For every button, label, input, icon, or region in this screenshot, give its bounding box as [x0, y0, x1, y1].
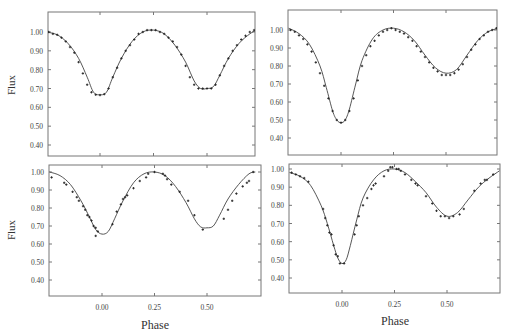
data-point	[78, 200, 80, 202]
y-tick-label: 0.40	[271, 274, 284, 283]
data-point	[448, 217, 450, 219]
y-tick-label: 1.00	[270, 26, 283, 35]
data-point	[458, 213, 460, 215]
data-point	[227, 209, 229, 211]
y-tick-label: 0.90	[271, 183, 284, 192]
data-point	[206, 87, 208, 89]
data-point	[372, 184, 374, 186]
y-tick-label: 0.80	[31, 204, 44, 213]
data-point	[172, 40, 174, 42]
y-tick-label: 0.50	[271, 256, 284, 265]
data-point	[170, 183, 172, 185]
x-tick-label: 0.25	[388, 300, 401, 309]
data-point	[399, 31, 401, 33]
panel-bottom-left: 1.000.900.800.700.600.500.400.000.250.50	[31, 165, 261, 312]
data-point	[415, 45, 417, 47]
data-point	[365, 54, 367, 56]
data-point	[394, 29, 396, 31]
data-point	[145, 176, 147, 178]
data-point	[76, 196, 78, 198]
y-tick-label: 0.40	[31, 276, 44, 285]
x-tick-label: 0.00	[335, 300, 348, 309]
data-point	[390, 27, 392, 29]
light-curve-figure: 1.000.900.800.700.600.500.40 1.000.900.8…	[0, 0, 509, 334]
y-tick-label: 0.40	[30, 141, 43, 150]
data-point	[310, 50, 312, 52]
y-tick-label: 0.90	[30, 47, 43, 56]
x-axis-label-right: Phase	[381, 314, 409, 328]
data-point	[366, 197, 368, 199]
data-point	[474, 43, 476, 45]
data-point	[99, 94, 101, 96]
y-axis-label-top: Flux	[5, 74, 17, 95]
y-tick-label: 0.80	[271, 201, 284, 210]
data-point	[323, 85, 325, 87]
data-point	[315, 61, 317, 63]
x-tick-label: 0.50	[440, 300, 453, 309]
data-point	[95, 235, 97, 237]
data-point	[193, 214, 195, 216]
data-point	[435, 210, 437, 212]
data-point	[441, 74, 443, 76]
panel-top-left: 1.000.900.800.700.600.500.40	[30, 12, 256, 156]
data-point	[63, 182, 65, 184]
y-tick-label: 0.70	[30, 85, 43, 94]
figure-canvas: 1.000.900.800.700.600.500.40 1.000.900.8…	[0, 0, 509, 334]
y-tick-label: 0.90	[31, 186, 44, 195]
data-point	[132, 187, 134, 189]
y-tick-label: 0.40	[270, 134, 283, 143]
data-point	[383, 175, 385, 177]
y-tick-label: 0.60	[270, 98, 283, 107]
y-tick-label: 0.70	[271, 220, 284, 229]
data-point	[86, 84, 88, 86]
data-point	[340, 122, 342, 124]
plot-frame	[288, 10, 497, 155]
plot-frame	[289, 164, 500, 293]
data-point	[193, 84, 195, 86]
data-point	[71, 191, 73, 193]
x-tick-label: 0.50	[200, 303, 213, 312]
y-tick-label: 0.70	[31, 222, 44, 231]
data-point	[184, 65, 186, 67]
data-point	[65, 183, 67, 185]
data-point	[252, 171, 254, 173]
y-tick-label: 0.70	[270, 80, 283, 89]
y-tick-label: 0.50	[31, 258, 44, 267]
data-point	[449, 74, 451, 76]
data-point	[391, 166, 393, 168]
data-point	[82, 72, 84, 74]
data-point	[202, 228, 204, 230]
data-point	[90, 91, 92, 93]
y-tick-label: 0.60	[30, 103, 43, 112]
data-point	[187, 200, 189, 202]
data-point	[153, 171, 155, 173]
data-point	[231, 200, 233, 202]
data-point	[189, 76, 191, 78]
data-point	[445, 74, 447, 76]
panel-top-right: 1.000.900.800.700.600.500.40	[270, 10, 499, 155]
model-curve	[50, 172, 256, 234]
panel-bottom-right: 1.000.900.800.700.600.500.400.000.250.50	[271, 164, 500, 309]
data-point	[362, 204, 364, 206]
data-point	[389, 166, 391, 168]
y-tick-label: 0.80	[270, 62, 283, 71]
data-point	[332, 244, 334, 246]
data-point	[319, 72, 321, 74]
data-point	[453, 72, 455, 74]
data-point	[491, 29, 493, 31]
y-tick-label: 0.50	[270, 116, 283, 125]
data-point	[77, 61, 79, 63]
x-tick-label: 0.25	[148, 303, 161, 312]
y-tick-label: 0.50	[30, 122, 43, 131]
plot-frame	[49, 165, 261, 296]
data-point	[370, 188, 372, 190]
data-point	[306, 43, 308, 45]
data-point	[235, 192, 237, 194]
data-point	[50, 176, 52, 178]
data-point	[248, 180, 250, 182]
data-point	[440, 215, 442, 217]
data-point	[295, 173, 297, 175]
x-axis-label-left: Phase	[141, 318, 169, 332]
data-point	[139, 180, 141, 182]
model-curve	[290, 169, 500, 264]
